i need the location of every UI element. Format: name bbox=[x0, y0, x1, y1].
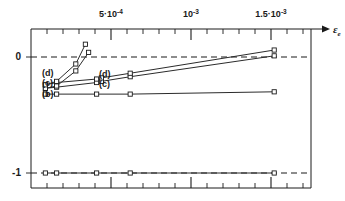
series-annotation: (c) bbox=[42, 78, 53, 88]
data-point-marker bbox=[55, 79, 59, 83]
x-axis-ticks-top bbox=[47, 29, 303, 40]
x-tick-label-2: 1.5·10-3 bbox=[255, 8, 287, 20]
data-point-marker bbox=[83, 42, 87, 46]
data-point-marker bbox=[95, 92, 99, 96]
x-axis-arrow bbox=[311, 26, 330, 33]
series-b bbox=[43, 90, 276, 97]
data-point-marker bbox=[87, 50, 91, 54]
data-point-marker bbox=[272, 54, 276, 58]
y-axis-ticks bbox=[26, 57, 31, 173]
data-point-marker bbox=[272, 48, 276, 52]
data-point-marker bbox=[55, 84, 59, 88]
y-tick-label-zero: 0 bbox=[15, 51, 21, 62]
data-point-marker bbox=[128, 92, 132, 96]
x-axis-name: εe bbox=[333, 23, 341, 38]
plot-frame bbox=[31, 29, 311, 188]
x-tick-label-1: 10-3 bbox=[183, 8, 199, 20]
data-point-marker bbox=[55, 171, 59, 175]
x-axis-ticks-bottom bbox=[47, 177, 303, 188]
chart-svg: 5·10-4 10-3 1.5·10-3 εe 0 -1 (d)(c)(b)(d… bbox=[0, 0, 345, 201]
series-line bbox=[45, 56, 274, 88]
data-point-marker bbox=[55, 92, 59, 96]
series-line bbox=[45, 92, 274, 94]
data-point-marker bbox=[272, 171, 276, 175]
data-point-marker bbox=[95, 171, 99, 175]
series-annotation: (d) bbox=[42, 68, 54, 78]
chart-figure: 5·10-4 10-3 1.5·10-3 εe 0 -1 (d)(c)(b)(d… bbox=[0, 0, 345, 201]
x-tick-label-0: 5·10-4 bbox=[99, 8, 123, 20]
data-point-marker bbox=[128, 71, 132, 75]
data-point-marker bbox=[128, 171, 132, 175]
series-a bbox=[43, 171, 276, 175]
series-annotation: (b) bbox=[42, 89, 54, 99]
data-point-marker bbox=[74, 62, 78, 66]
data-point-marker bbox=[272, 90, 276, 94]
series-annotation: (d) bbox=[99, 69, 111, 79]
data-point-marker bbox=[43, 171, 47, 175]
y-tick-label-minus-one: -1 bbox=[12, 167, 21, 178]
series-annotation: (c) bbox=[99, 79, 110, 89]
data-series-layer bbox=[43, 42, 276, 175]
data-point-marker bbox=[74, 69, 78, 73]
